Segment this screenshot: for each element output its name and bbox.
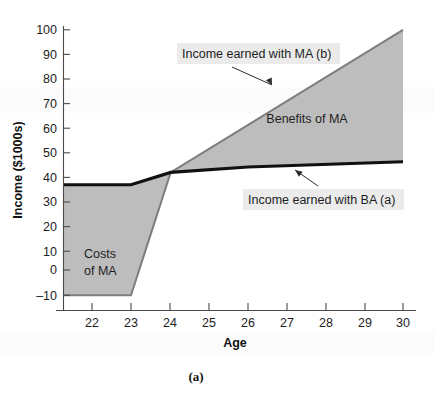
y-tick-label: 40 xyxy=(43,171,57,185)
y-tick-label: 30 xyxy=(43,195,57,209)
shaded-area-costs-of-ma xyxy=(63,172,171,295)
x-tick-label: 26 xyxy=(241,316,255,330)
y-axis-title: Income ($1000s) xyxy=(11,121,25,218)
y-tick-labels: 100 90 80 70 60 50 40 30 20 10 0 –10 xyxy=(36,23,57,303)
x-tick-label: 23 xyxy=(124,316,138,330)
callout-income-ma-text: Income earned with MA (b) xyxy=(182,47,331,61)
y-tick-label: 50 xyxy=(43,146,57,160)
y-tick-label: 20 xyxy=(43,220,57,234)
panel-caption: (a) xyxy=(188,369,203,384)
x-tick-label: 29 xyxy=(358,316,372,330)
y-tick-label: 60 xyxy=(43,122,57,136)
x-tick-labels: 22 23 24 25 26 27 28 29 30 xyxy=(85,316,410,330)
callout-income-ba-text: Income earned with BA (a) xyxy=(248,193,395,207)
income-comparison-chart: 100 90 80 70 60 50 40 30 20 10 0 –10 22 … xyxy=(0,0,434,398)
y-tick-label: 80 xyxy=(43,72,57,86)
callout-income-ba: Income earned with BA (a) xyxy=(243,170,404,210)
y-tick-label: 90 xyxy=(43,48,57,62)
x-axis-title: Age xyxy=(223,336,247,350)
costs-of-ma-label-line2: of MA xyxy=(84,264,117,278)
costs-of-ma-label-line1: Costs xyxy=(84,247,116,261)
y-tick-label: 10 xyxy=(43,245,57,259)
x-tick-label: 30 xyxy=(396,316,410,330)
figure-panel-a: 100 90 80 70 60 50 40 30 20 10 0 –10 22 … xyxy=(0,0,434,398)
x-tick-label: 28 xyxy=(319,316,333,330)
y-tick-label: 70 xyxy=(43,97,57,111)
benefits-of-ma-label: Benefits of MA xyxy=(266,112,348,126)
x-axis xyxy=(56,303,416,311)
y-tick-label: 100 xyxy=(36,23,57,37)
x-tick-label: 25 xyxy=(202,316,216,330)
x-tick-label: 24 xyxy=(163,316,177,330)
y-tick-label: –10 xyxy=(36,289,57,303)
x-tick-label: 22 xyxy=(85,316,99,330)
x-tick-label: 27 xyxy=(280,316,294,330)
callout-income-ma: Income earned with MA (b) xyxy=(177,43,340,85)
y-tick-label: 0 xyxy=(50,263,57,277)
